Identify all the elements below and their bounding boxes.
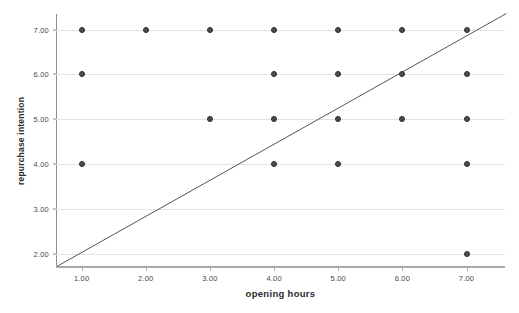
x-tick-mark xyxy=(82,268,83,271)
y-tick-label: 5.00 xyxy=(34,115,49,124)
x-tick-mark xyxy=(274,268,275,271)
x-tick-label: 6.00 xyxy=(395,274,410,283)
data-point xyxy=(207,27,213,33)
data-point xyxy=(464,116,470,122)
plot-area: 2.003.004.005.006.007.00 1.002.003.004.0… xyxy=(56,14,505,268)
regression-fit-line xyxy=(56,14,505,268)
data-point xyxy=(79,27,85,33)
data-point xyxy=(79,161,85,167)
y-tick-label: 3.00 xyxy=(34,204,49,213)
data-point xyxy=(464,251,470,257)
y-axis-title: repurchase intention xyxy=(16,14,30,268)
scatter-plot-figure: 2.003.004.005.006.007.00 1.002.003.004.0… xyxy=(0,0,519,313)
x-tick-label: 7.00 xyxy=(459,274,474,283)
data-point xyxy=(143,27,149,33)
x-axis-title: opening hours xyxy=(56,288,505,299)
x-tick-label: 3.00 xyxy=(202,274,217,283)
x-tick-mark xyxy=(210,268,211,271)
data-point xyxy=(335,27,341,33)
y-tick-label: 4.00 xyxy=(34,160,49,169)
x-tick-label: 1.00 xyxy=(74,274,89,283)
x-tick-mark xyxy=(146,268,147,271)
x-tick-mark xyxy=(402,268,403,271)
x-tick-mark xyxy=(467,268,468,271)
data-point xyxy=(271,27,277,33)
data-point xyxy=(464,161,470,167)
x-tick-label: 4.00 xyxy=(266,274,281,283)
y-tick-label: 7.00 xyxy=(34,25,49,34)
y-tick-label: 2.00 xyxy=(34,249,49,258)
data-point xyxy=(464,27,470,33)
x-tick-label: 2.00 xyxy=(138,274,153,283)
x-tick-mark xyxy=(338,268,339,271)
y-tick-label: 6.00 xyxy=(34,70,49,79)
x-tick-label: 5.00 xyxy=(331,274,346,283)
